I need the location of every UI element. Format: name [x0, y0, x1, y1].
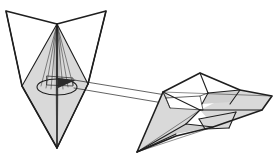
- geometric-figure: Two faceted polyhedral shapes linked by …: [0, 0, 277, 158]
- projection-line-upper: [74, 80, 172, 96]
- right-polyhedron: [137, 73, 272, 152]
- projection-line-lower: [74, 88, 169, 104]
- left-polyhedron: [6, 11, 106, 148]
- figure-canvas: Two faceted polyhedral shapes linked by …: [0, 0, 277, 158]
